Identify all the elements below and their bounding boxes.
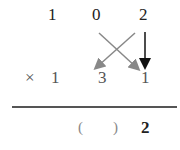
result-digit: 2: [141, 119, 150, 136]
multiplier-digit-1: 1: [51, 69, 60, 86]
multiplier-digit-2: 3: [98, 69, 107, 86]
multiply-sign: ×: [25, 69, 35, 86]
sum-line: [12, 106, 177, 108]
answer-blank[interactable]: ( ): [78, 119, 118, 136]
multiplier-digit-3: 1: [141, 69, 150, 86]
